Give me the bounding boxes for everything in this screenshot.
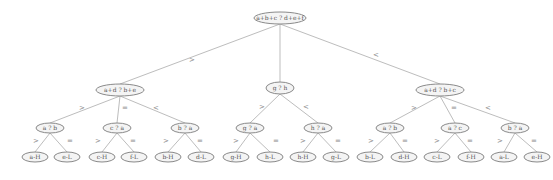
edge-label: < [373, 51, 379, 59]
edge-label: = [122, 104, 128, 112]
leaf-node: e-L [54, 152, 80, 162]
node-label: c-L [432, 153, 441, 160]
decision-node: a ? b [376, 123, 404, 133]
leaf-node: a-H [22, 152, 48, 162]
edge-label: = [197, 137, 203, 145]
edge-label: = [451, 104, 457, 112]
node-label: b-H [162, 153, 173, 160]
decision-node: a+d ? b+c [416, 84, 464, 96]
leaf-node: h-L [257, 152, 283, 162]
node-label: c-H [97, 153, 108, 160]
node-label: d-L [196, 153, 206, 160]
edge-label: < [153, 104, 159, 112]
edge-label: < [485, 104, 491, 112]
edge-label: = [402, 137, 408, 145]
edge-label: > [33, 137, 39, 145]
edge-label: > [233, 137, 239, 145]
edge-label: > [163, 137, 169, 145]
node-label: g ? h [273, 84, 288, 92]
decision-tree-diagram: ><>=<><>=<>=>=>=>=>=>=>=>= a+b+c ? d+e+f… [0, 0, 553, 180]
leaf-node: f-L [121, 152, 147, 162]
tree-edge [250, 94, 280, 123]
edge-label: > [79, 104, 85, 112]
leaf-node: b-L [357, 152, 383, 162]
node-label: e-H [532, 153, 543, 160]
tree-edge [250, 133, 270, 152]
node-label: g-H [230, 153, 241, 161]
tree-edge [504, 133, 515, 152]
decision-node: b ? a [171, 123, 199, 133]
decision-node: g ? a [236, 123, 264, 133]
node-label: b ? a [508, 124, 523, 131]
leaf-node: f-H [458, 152, 484, 162]
node-label: h-L [265, 153, 275, 160]
edge-label: > [368, 137, 374, 145]
node-label: a ? c [448, 124, 463, 131]
node-label: a ? b [383, 124, 398, 131]
node-label: a ? b [43, 124, 58, 131]
tree-edge [280, 24, 440, 84]
node-label: a-L [499, 153, 509, 160]
node-label: f-L [130, 153, 138, 160]
leaf-node: a-L [491, 152, 517, 162]
edge-label: > [189, 56, 195, 64]
edge-label: > [497, 137, 503, 145]
node-label: h ? a [311, 124, 326, 131]
edge-label: > [259, 103, 265, 111]
edge-label: > [434, 137, 440, 145]
edge-label: > [411, 104, 417, 112]
edge-label: = [130, 137, 136, 145]
leaf-node: c-L [424, 152, 450, 162]
tree-edge [102, 133, 117, 152]
leaf-node: d-L [188, 152, 214, 162]
tree-edge [120, 24, 280, 84]
node-label: h-H [297, 153, 308, 160]
decision-node: h ? a [304, 123, 332, 133]
decision-node: b ? a [501, 123, 529, 133]
leaf-node: b-H [155, 152, 181, 162]
leaf-node: d-H [391, 152, 417, 162]
leaf-node: h-H [290, 152, 316, 162]
node-label: d-H [398, 153, 409, 160]
leaf-node: g-L [323, 152, 349, 162]
node-label: b-L [365, 153, 375, 160]
leaf-node: g-H [223, 152, 249, 162]
tree-edge [168, 133, 185, 152]
edge-label: = [67, 137, 73, 145]
node-label: f-H [466, 153, 475, 160]
edge-label: = [531, 137, 537, 145]
node-label: c ? a [110, 124, 124, 131]
leaf-node: c-H [89, 152, 115, 162]
node-label: e-L [62, 153, 72, 160]
edge-label: = [335, 137, 341, 145]
node-label: a+d ? b+c [424, 86, 456, 93]
edge-label: > [300, 137, 306, 145]
edge-label: > [95, 137, 101, 145]
tree-edge [280, 94, 318, 123]
root-node: a+b+c ? d+e+f [254, 12, 306, 24]
decision-node: a ? b [36, 123, 64, 133]
tree-edge [117, 96, 120, 123]
edge-label: = [273, 137, 279, 145]
node-label: g-L [331, 153, 341, 161]
node-label: a+d ? b+e [104, 86, 136, 93]
decision-node: c ? a [103, 123, 131, 133]
node-label: b ? a [178, 124, 193, 131]
decision-node: a+d ? b+e [96, 84, 144, 96]
tree-edge [318, 133, 336, 152]
leaf-node: e-H [524, 152, 550, 162]
node-label: a+b+c ? d+e+f [256, 14, 304, 21]
decision-node: g ? h [266, 82, 294, 94]
edge-label: = [467, 137, 473, 145]
tree-edge [50, 96, 120, 123]
decision-node: a ? c [441, 123, 469, 133]
node-label: g ? a [243, 124, 258, 132]
tree-edge [50, 133, 67, 152]
node-label: a-H [30, 153, 41, 160]
edge-label: < [303, 103, 309, 111]
